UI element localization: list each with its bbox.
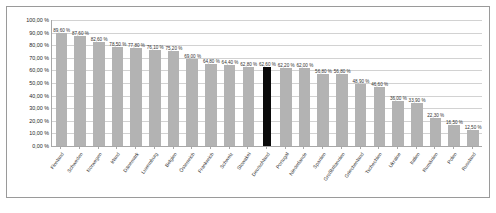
bar-slot: 76,10 % bbox=[146, 20, 165, 146]
bar-slot: 89,60 % bbox=[52, 20, 71, 146]
bar-slot: 77,80 % bbox=[127, 20, 146, 146]
x-axis-label-cell: Luxemburg bbox=[145, 151, 164, 197]
bar[interactable]: 69,00 % bbox=[186, 59, 198, 146]
bar-value-label: 56,80 % bbox=[334, 69, 351, 74]
y-axis-tick-label: 80,00 % bbox=[29, 42, 49, 48]
bar[interactable]: 75,20 % bbox=[168, 51, 180, 146]
bar-value-label: 64,40 % bbox=[222, 59, 239, 64]
chart-plot-wrapper: 100,00 %90,00 %80,00 %70,00 %60,00 %50,0… bbox=[7, 7, 489, 197]
x-axis-label-cell: Russland bbox=[462, 151, 481, 197]
bar-slot: 56,80 % bbox=[333, 20, 352, 146]
x-axis-tick bbox=[201, 146, 220, 150]
bar-slot: 69,00 % bbox=[183, 20, 202, 146]
bar-slot: 62,60 % bbox=[258, 20, 277, 146]
x-axis-label-cell: Belgien bbox=[163, 151, 182, 197]
bar[interactable]: 56,80 % bbox=[336, 74, 348, 146]
x-axis-tick bbox=[88, 146, 107, 150]
bar-value-label: 87,60 % bbox=[72, 30, 89, 35]
y-axis-tick-label: 50,00 % bbox=[29, 80, 49, 86]
bar[interactable]: 46,60 % bbox=[374, 87, 386, 146]
x-axis-tick bbox=[51, 146, 70, 150]
bar-value-label: 16,50 % bbox=[446, 120, 463, 125]
y-axis-tick-label: 100,00 % bbox=[26, 17, 49, 23]
bar-slot: 75,20 % bbox=[164, 20, 183, 146]
x-axis-tick bbox=[462, 146, 481, 150]
y-axis-tick-label: 70,00 % bbox=[29, 55, 49, 61]
bar[interactable]: 33,90 % bbox=[411, 103, 423, 146]
bar-highlighted[interactable]: 62,60 % bbox=[263, 67, 272, 146]
bar-value-label: 82,60 % bbox=[91, 36, 108, 41]
y-axis-tick-label: 10,00 % bbox=[29, 130, 49, 136]
bar-slot: 46,60 % bbox=[370, 20, 389, 146]
bar-value-label: 69,00 % bbox=[184, 54, 201, 59]
x-axis-tick bbox=[257, 146, 276, 150]
bar-slot: 64,40 % bbox=[220, 20, 239, 146]
x-axis-category-label: Russland bbox=[460, 151, 477, 172]
bar-value-label: 22,30 % bbox=[427, 112, 444, 117]
bar-value-label: 77,80 % bbox=[128, 42, 145, 47]
x-axis-category-label: Finnland bbox=[49, 151, 65, 170]
bar-value-label: 33,90 % bbox=[409, 98, 426, 103]
y-axis-tick-label: 30,00 % bbox=[29, 105, 49, 111]
x-axis-category-label: Portugal bbox=[274, 151, 290, 170]
bar[interactable]: 76,10 % bbox=[149, 50, 161, 146]
x-axis-tick bbox=[238, 146, 257, 150]
bar-slot: 64,80 % bbox=[202, 20, 221, 146]
bar[interactable]: 78,50 % bbox=[112, 47, 124, 146]
bar-value-label: 64,80 % bbox=[203, 59, 220, 64]
bar[interactable]: 48,90 % bbox=[355, 84, 367, 146]
bar-value-label: 78,50 % bbox=[109, 42, 126, 47]
bar-slot: 12,50 % bbox=[463, 20, 482, 146]
bar[interactable]: 82,60 % bbox=[93, 42, 105, 146]
bar-value-label: 62,20 % bbox=[278, 62, 295, 67]
x-axis-tick bbox=[182, 146, 201, 150]
bar-slot: 56,80 % bbox=[314, 20, 333, 146]
bar-value-label: 48,90 % bbox=[353, 79, 370, 84]
bar-value-label: 75,20 % bbox=[165, 46, 182, 51]
x-axis-category-label: Irland bbox=[109, 151, 121, 165]
bar-value-label: 56,80 % bbox=[315, 69, 332, 74]
bar[interactable]: 56,80 % bbox=[317, 74, 329, 146]
x-axis-tick bbox=[369, 146, 388, 150]
bar[interactable]: 62,00 % bbox=[299, 68, 311, 146]
x-axis-label-cell: Rumänien bbox=[425, 151, 444, 197]
bar-chart-figure: 100,00 %90,00 %80,00 %70,00 %60,00 %50,0… bbox=[0, 0, 496, 213]
plot-area: 89,60 %87,60 %82,60 %78,50 %77,80 %76,10… bbox=[51, 20, 482, 147]
bar[interactable]: 16,50 % bbox=[448, 125, 460, 146]
bar-slot: 78,50 % bbox=[108, 20, 127, 146]
x-axis-label-cell: Irland bbox=[107, 151, 126, 197]
bar[interactable]: 36,00 % bbox=[392, 101, 404, 146]
x-axis-label-cell: Finnland bbox=[51, 151, 70, 197]
x-axis-label-cell: Österreich bbox=[182, 151, 201, 197]
bar[interactable]: 12,50 % bbox=[467, 130, 479, 146]
bar[interactable]: 62,80 % bbox=[243, 67, 255, 146]
bar-slot: 62,80 % bbox=[239, 20, 258, 146]
bar[interactable]: 62,20 % bbox=[280, 68, 292, 146]
bar[interactable]: 87,60 % bbox=[74, 36, 86, 146]
x-axis-tick bbox=[145, 146, 164, 150]
bar[interactable]: 77,80 % bbox=[130, 48, 142, 146]
x-axis-tick bbox=[444, 146, 463, 150]
bar[interactable]: 22,30 % bbox=[430, 118, 442, 146]
bar[interactable]: 64,40 % bbox=[224, 65, 236, 146]
bar-slot: 22,30 % bbox=[426, 20, 445, 146]
bar-value-label: 46,60 % bbox=[371, 82, 388, 87]
x-axis-category-label: Polen bbox=[446, 151, 458, 165]
bar-slot: 82,60 % bbox=[89, 20, 108, 146]
bar-slot: 36,00 % bbox=[389, 20, 408, 146]
x-axis-category-label: Belgien bbox=[163, 151, 177, 168]
x-axis-tick bbox=[126, 146, 145, 150]
bar-slot: 62,00 % bbox=[295, 20, 314, 146]
bar-value-label: 62,80 % bbox=[240, 61, 257, 66]
x-axis-label-cell: Deutschland bbox=[257, 151, 276, 197]
bar-value-label: 62,60 % bbox=[259, 62, 276, 67]
x-axis-category-label: Spanien bbox=[312, 151, 327, 169]
x-axis-tick bbox=[425, 146, 444, 150]
bar-value-label: 36,00 % bbox=[390, 95, 407, 100]
x-axis-tick bbox=[350, 146, 369, 150]
bar[interactable]: 89,60 % bbox=[56, 33, 68, 146]
bar[interactable]: 64,80 % bbox=[205, 64, 217, 146]
y-axis: 100,00 %90,00 %80,00 %70,00 %60,00 %50,0… bbox=[7, 7, 51, 152]
bar-value-label: 62,00 % bbox=[296, 62, 313, 67]
x-axis-label-cell: Tschechien bbox=[369, 151, 388, 197]
